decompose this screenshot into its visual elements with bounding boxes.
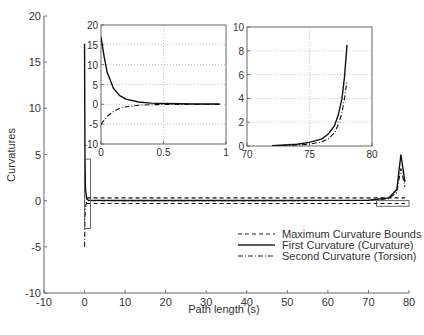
chart: -10-505101520-1001020304050607080 -10-50… bbox=[0, 0, 424, 335]
inset-start-plot: -10-50510152000.51 bbox=[84, 20, 230, 158]
legend-label-torsion: Second Curvature (Torsion) bbox=[282, 250, 417, 262]
y-tick-label: 0 bbox=[35, 195, 41, 207]
y-tick-label: 20 bbox=[87, 20, 99, 31]
y-tick-label: 0 bbox=[92, 99, 98, 110]
y-tick-label: 20 bbox=[29, 10, 41, 22]
y-tick-label: -10 bbox=[84, 139, 99, 150]
x-tick-label: 70 bbox=[362, 296, 374, 308]
y-tick-label: 10 bbox=[233, 22, 245, 33]
x-tick-label: 0 bbox=[98, 147, 104, 158]
x-axis-label: Path length (s) bbox=[188, 303, 260, 315]
legend: Maximum Curvature Bounds First Curvature… bbox=[238, 228, 422, 262]
inset-frame bbox=[247, 27, 372, 146]
y-tick-label: 8 bbox=[238, 46, 244, 57]
x-tick-label: 70 bbox=[241, 149, 253, 160]
y-tick-label: 10 bbox=[87, 60, 99, 71]
x-tick-label: 0 bbox=[81, 296, 87, 308]
x-tick-label: 1 bbox=[223, 147, 229, 158]
x-tick-label: 50 bbox=[281, 296, 293, 308]
y-axis-label: Curvatures bbox=[5, 128, 17, 182]
x-tick-label: 0.5 bbox=[157, 147, 171, 158]
x-tick-label: 80 bbox=[403, 296, 415, 308]
y-tick-label: 15 bbox=[87, 40, 99, 51]
x-tick-label: 60 bbox=[322, 296, 334, 308]
y-tick-label: 6 bbox=[238, 70, 244, 81]
y-tick-label: 4 bbox=[238, 93, 244, 104]
y-tick-label: 10 bbox=[29, 102, 41, 114]
y-tick-label: 2 bbox=[238, 117, 244, 128]
x-tick-label: 75 bbox=[304, 149, 316, 160]
inset-end-plot: 0246810707580 bbox=[233, 22, 378, 160]
x-tick-label: -10 bbox=[36, 296, 52, 308]
x-tick-label: 80 bbox=[366, 149, 378, 160]
y-tick-label: 15 bbox=[29, 56, 41, 68]
y-tick-label: 5 bbox=[35, 149, 41, 161]
y-tick-label: 5 bbox=[92, 80, 98, 91]
x-tick-label: 20 bbox=[160, 296, 172, 308]
x-tick-label: 10 bbox=[119, 296, 131, 308]
y-tick-label: -5 bbox=[31, 241, 41, 253]
y-tick-label: -5 bbox=[89, 119, 98, 130]
